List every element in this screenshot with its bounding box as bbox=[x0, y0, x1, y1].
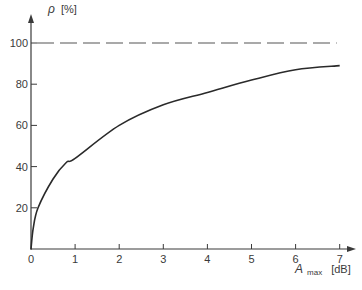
x-tick-label: 0 bbox=[28, 253, 34, 265]
y-axis-title: ρ [%] bbox=[47, 0, 77, 16]
y-tick-label: 40 bbox=[16, 161, 28, 173]
y-tick-label: 20 bbox=[16, 202, 28, 214]
x-tick-label: 3 bbox=[160, 253, 166, 265]
x-axis-arrow-icon bbox=[347, 246, 356, 252]
series-layer bbox=[31, 43, 340, 249]
y-tick-label: 100 bbox=[10, 37, 28, 49]
x-tick-label: 5 bbox=[248, 253, 254, 265]
y-ticks: 20406080100 bbox=[10, 37, 37, 214]
y-axis-arrow-icon bbox=[28, 14, 34, 23]
plot-area: 01234567 20406080100 ρ [%] A max [dB] bbox=[10, 0, 356, 278]
rho-curve bbox=[31, 66, 340, 249]
y-tick-label: 80 bbox=[16, 78, 28, 90]
x-tick-label: 4 bbox=[204, 253, 210, 265]
y-tick-label: 60 bbox=[16, 119, 28, 131]
x-tick-label: 2 bbox=[116, 253, 122, 265]
chart: 01234567 20406080100 ρ [%] A max [dB] bbox=[0, 0, 362, 290]
x-tick-label: 1 bbox=[72, 253, 78, 265]
